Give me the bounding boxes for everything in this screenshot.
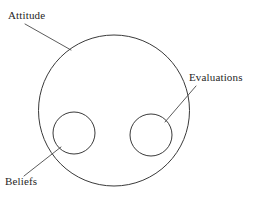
beliefs-circle: [53, 112, 95, 154]
evaluations-circle: [130, 114, 172, 156]
beliefs-label: Beliefs: [5, 175, 37, 187]
evaluations-label: Evaluations: [189, 71, 243, 83]
evaluations-leader-line: [165, 86, 196, 122]
attitude-label: Attitude: [8, 9, 45, 21]
attitude-leader-line: [25, 24, 71, 50]
diagram-canvas: Attitude Evaluations Beliefs: [0, 0, 256, 205]
attitude-circle: [39, 35, 190, 186]
beliefs-leader-line: [24, 147, 61, 176]
diagram-svg: Attitude Evaluations Beliefs: [0, 0, 256, 205]
